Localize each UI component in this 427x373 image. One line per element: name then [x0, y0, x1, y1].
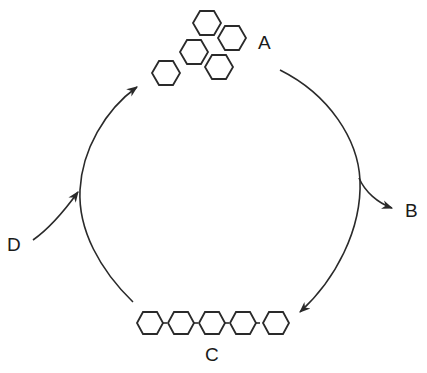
label-a: A [258, 32, 271, 53]
hexagon-unit [137, 312, 163, 334]
label-b: B [405, 200, 418, 221]
label-d: D [7, 234, 21, 255]
arrow-to-b [359, 178, 392, 208]
arrow-from-d [33, 192, 78, 240]
hexagon-unit [152, 61, 180, 85]
hexagon-cluster-a [152, 11, 246, 85]
hexagon-unit [168, 312, 194, 334]
hexagon-unit [193, 11, 221, 35]
hexagon-unit [205, 55, 233, 79]
hexagon-unit [263, 312, 289, 334]
arrow-c-to-a [80, 87, 137, 302]
label-c: C [205, 344, 219, 365]
hexagon-unit [218, 26, 246, 50]
hexagon-unit [230, 312, 256, 334]
hexagon-unit [180, 40, 208, 64]
cycle-diagram: A B C D [0, 0, 427, 373]
arrow-a-to-c [280, 70, 360, 312]
hexagon-chain-c [137, 312, 289, 334]
hexagon-unit [199, 312, 225, 334]
